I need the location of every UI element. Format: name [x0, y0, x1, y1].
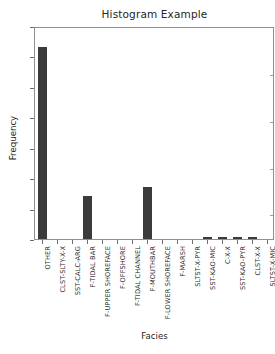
x-tick-mark: [252, 240, 253, 244]
y-tick-mark: [30, 179, 34, 180]
y-tick-mark: [30, 210, 34, 211]
page-title: Histogram Example: [34, 8, 275, 20]
x-tick-label: F-MOUTHBAR: [149, 246, 157, 291]
bar: [83, 196, 91, 239]
x-tick-label: F-TIDAL CHANNEL: [134, 246, 142, 306]
plot-area: [34, 27, 274, 240]
y-tick-mark: [30, 27, 34, 28]
bar: [143, 187, 151, 239]
frame-minor-tick: [270, 215, 273, 216]
x-tick-mark: [162, 240, 163, 244]
x-tick-mark: [147, 240, 148, 244]
x-tick-label: CLST-X-X: [254, 246, 262, 276]
x-tick-label: SST-CALC-ARG: [74, 246, 82, 295]
y-tick-mark: [30, 240, 34, 241]
x-tick-label: SST-KAO-PYR: [239, 246, 247, 290]
x-tick-label: F-UPPER SHOREFACE: [104, 246, 112, 317]
x-tick-mark: [267, 240, 268, 244]
x-tick-mark: [237, 240, 238, 244]
x-tick-mark: [177, 240, 178, 244]
x-tick-mark: [42, 240, 43, 244]
x-tick-mark: [207, 240, 208, 244]
x-axis-label: Facies: [34, 331, 275, 341]
x-tick-label: SLTST-X-PYR: [194, 246, 202, 287]
frame-minor-tick: [270, 169, 273, 170]
y-axis-label: Frequency: [8, 73, 18, 203]
bar: [218, 237, 226, 239]
x-tick-label: F-LOWER SHOREFACE: [164, 246, 172, 319]
bar: [38, 47, 46, 239]
bar: [248, 237, 256, 239]
x-tick-mark: [192, 240, 193, 244]
frame-minor-tick: [270, 122, 273, 123]
bar-series: [35, 28, 273, 239]
x-tick-label: OTHER: [44, 246, 52, 269]
bar: [233, 237, 241, 239]
x-tick-mark: [117, 240, 118, 244]
bar: [203, 237, 211, 239]
x-tick-label: CLST-SLTY-X-X: [59, 246, 67, 293]
x-tick-label: SST-KAO-MIC: [209, 246, 217, 290]
x-tick-mark: [87, 240, 88, 244]
x-tick-mark: [132, 240, 133, 244]
x-tick-mark: [102, 240, 103, 244]
x-tick-label: F-MARSH: [179, 246, 187, 277]
histogram-figure: Histogram Example Frequency 020040060080…: [0, 0, 275, 354]
x-tick-mark: [57, 240, 58, 244]
x-tick-label: C-X-X: [224, 246, 232, 264]
x-tick-label: SLTST-X-MIC: [269, 246, 275, 287]
y-tick-mark: [30, 88, 34, 89]
frame-minor-tick: [270, 75, 273, 76]
y-tick-mark: [30, 57, 34, 58]
x-tick-mark: [72, 240, 73, 244]
x-tick-label: F-TIDAL BAR: [89, 246, 97, 288]
y-tick-mark: [30, 118, 34, 119]
y-tick-mark: [30, 149, 34, 150]
x-tick-label: F-OFFSHORE: [119, 246, 127, 289]
x-tick-mark: [222, 240, 223, 244]
